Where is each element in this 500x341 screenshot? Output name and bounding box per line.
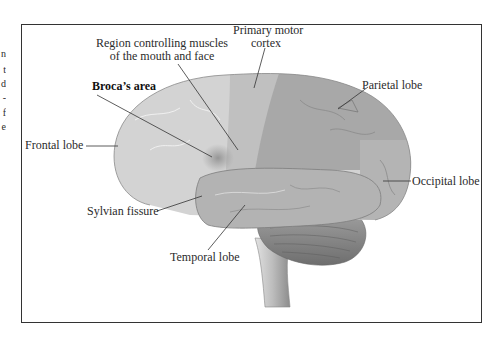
label-region-mouth-face: Region controlling muscles of the mouth … — [94, 37, 230, 63]
label-frontal-lobe: Frontal lobe — [25, 139, 83, 152]
temporal-lobe-shape — [196, 168, 381, 228]
label-mouth-face-line2: of the mouth and face — [94, 50, 230, 63]
label-brocas-area: Broca’s area — [92, 80, 156, 93]
brain-illustration — [0, 0, 500, 341]
label-parietal-lobe: Parietal lobe — [362, 79, 422, 92]
label-temporal-lobe: Temporal lobe — [170, 251, 239, 264]
label-sylvian-fissure: Sylvian fissure — [87, 205, 159, 218]
label-primary-motor-line2: cortex — [233, 37, 299, 50]
label-occipital-lobe: Occipital lobe — [412, 175, 480, 188]
label-primary-motor-cortex: Primary motor cortex — [233, 24, 299, 50]
